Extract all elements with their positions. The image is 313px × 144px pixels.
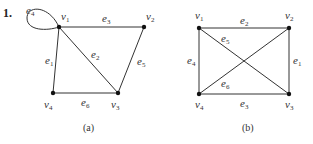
vertex-v3 [287, 92, 291, 96]
edge-label-e2: e2 [91, 48, 100, 62]
vertex-v1 [197, 26, 201, 30]
edge-label-e3: e3 [240, 97, 249, 111]
vertex-v4 [51, 91, 55, 95]
vertex-v2 [287, 26, 291, 30]
edge-label-e1: e1 [293, 54, 302, 68]
edge-e2 [59, 27, 118, 93]
edge-e1 [53, 27, 59, 93]
vertex-v4 [197, 92, 201, 96]
caption-a: (a) [83, 122, 94, 134]
edge-label-e3: e3 [102, 12, 111, 26]
vertex-v2 [142, 25, 146, 29]
graph-a: e1e2e3e4e5e6v1v2v3v4(a) [26, 4, 155, 134]
vertex-v3 [116, 91, 120, 95]
edge-label-e5: e5 [221, 32, 230, 46]
edge-label-e6: e6 [81, 96, 90, 110]
vertex-label-v3: v3 [285, 98, 294, 112]
caption-b: (b) [242, 122, 254, 134]
edge-label-e6: e6 [221, 77, 230, 91]
vertex-label-v4: v4 [195, 98, 204, 112]
edge-label-e4: e4 [26, 4, 35, 18]
vertex-label-v4: v4 [44, 98, 53, 112]
problem-number: 1. [3, 6, 12, 20]
vertex-label-v1: v1 [61, 10, 70, 24]
vertex-label-v2: v2 [146, 10, 155, 24]
vertex-label-v2: v2 [285, 9, 294, 23]
graph-diagram: 1. e1e2e3e4e5e6v1v2v3v4(a) e1e2e3e4e5e6v… [0, 0, 313, 144]
edge-label-e2: e2 [240, 14, 249, 28]
edge-label-e5: e5 [137, 55, 146, 69]
edge-label-e4: e4 [187, 54, 196, 68]
vertex-label-v1: v1 [195, 9, 204, 23]
edge-label-e1: e1 [45, 54, 54, 68]
vertex-label-v3: v3 [111, 98, 120, 112]
graph-b: e1e2e3e4e5e6v1v2v3v4(b) [187, 9, 302, 134]
vertex-v1 [57, 25, 61, 29]
